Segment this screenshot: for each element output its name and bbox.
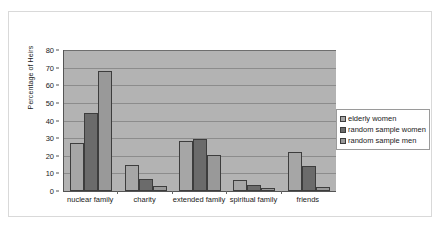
y-tick-label: 20 (46, 151, 54, 160)
y-tick-mark (56, 120, 59, 121)
bar-groups (64, 50, 336, 191)
x-tick-mark (172, 191, 173, 194)
x-tick-label: extended family (172, 195, 226, 205)
y-tick-label: 50 (46, 98, 54, 107)
legend-label: elderly women (348, 114, 396, 123)
bar[interactable] (84, 113, 98, 191)
y-tick-mark (56, 155, 59, 156)
y-tick-mark (56, 191, 59, 192)
bar[interactable] (316, 187, 330, 191)
legend-label: random sample women (348, 125, 426, 134)
x-tick-mark (226, 191, 227, 194)
bar-group (118, 50, 172, 191)
y-tick-label: 60 (46, 81, 54, 90)
x-tick-label: friends (281, 195, 335, 205)
x-tick-label: spiritual family (226, 195, 280, 205)
legend-item[interactable]: random sample women (340, 124, 426, 135)
bar-group (64, 50, 118, 191)
legend-swatch-icon (340, 138, 346, 144)
bar[interactable] (153, 186, 167, 191)
y-tick-label: 10 (46, 169, 54, 178)
plot-area (63, 50, 336, 192)
legend-swatch-icon (340, 116, 346, 122)
bar[interactable] (247, 185, 261, 191)
bar[interactable] (139, 179, 153, 191)
y-tick-mark (56, 50, 59, 51)
x-tick-mark (281, 191, 282, 194)
bar[interactable] (125, 165, 139, 191)
y-tick-mark (56, 67, 59, 68)
bar-group (227, 50, 281, 191)
legend-label: random sample men (348, 136, 416, 145)
y-tick-mark (56, 102, 59, 103)
chart-legend: elderly womenrandom sample womenrandom s… (336, 109, 430, 150)
x-axis-tick-labels: nuclear familycharityextended familyspir… (63, 195, 335, 205)
legend-item[interactable]: random sample men (340, 135, 426, 146)
bar[interactable] (70, 143, 84, 191)
y-tick-label: 30 (46, 134, 54, 143)
bar[interactable] (233, 180, 247, 191)
y-tick-label: 80 (46, 46, 54, 55)
y-tick-mark (56, 85, 59, 86)
legend-swatch-icon (340, 127, 346, 133)
bar[interactable] (179, 141, 193, 191)
bar-group (282, 50, 336, 191)
y-tick-label: 70 (46, 63, 54, 72)
bar[interactable] (302, 166, 316, 191)
y-tick-label: 40 (46, 116, 54, 125)
bar[interactable] (98, 71, 112, 191)
bar-group (173, 50, 227, 191)
bar[interactable] (193, 139, 207, 191)
y-tick-label: 0 (50, 187, 54, 196)
y-tick-mark (56, 173, 59, 174)
bar[interactable] (261, 188, 275, 191)
x-tick-label: nuclear family (63, 195, 117, 205)
x-tick-label: charity (117, 195, 171, 205)
legend-item[interactable]: elderly women (340, 113, 426, 124)
chart-figure: Percentage of Heirs 01020304050607080 nu… (8, 11, 432, 217)
y-axis-tick-labels: 01020304050607080 (9, 50, 59, 191)
bar[interactable] (288, 152, 302, 191)
bar[interactable] (207, 155, 221, 191)
y-tick-mark (56, 138, 59, 139)
x-tick-mark (117, 191, 118, 194)
